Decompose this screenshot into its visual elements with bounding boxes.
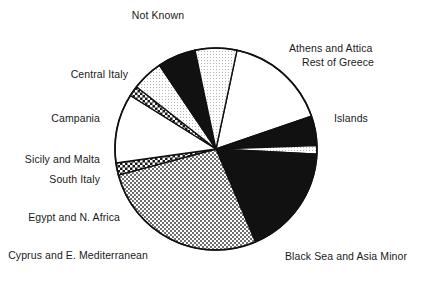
pie-slice-label: Central Italy bbox=[0, 68, 128, 81]
pie-slice-label: South Italy bbox=[0, 173, 100, 186]
pie-slice-label: Rest of Greece bbox=[302, 56, 374, 69]
chart-page: Not KnownAthens and AtticaRest of Greece… bbox=[0, 0, 422, 285]
pie-slice-label: Black Sea and Asia Minor bbox=[285, 250, 407, 263]
pie-slice-label: Athens and Attica bbox=[289, 42, 372, 55]
pie-slice-label: Islands bbox=[334, 112, 368, 125]
pie-slice-label: Sicily and Malta bbox=[0, 153, 100, 166]
pie-slice-label: Not Known bbox=[0, 9, 316, 22]
pie-slice-label: Egypt and N. Africa bbox=[0, 211, 120, 224]
pie-slice-label: Cyprus and E. Mediterranean bbox=[0, 249, 148, 262]
pie-slice-label: Campania bbox=[0, 112, 100, 125]
